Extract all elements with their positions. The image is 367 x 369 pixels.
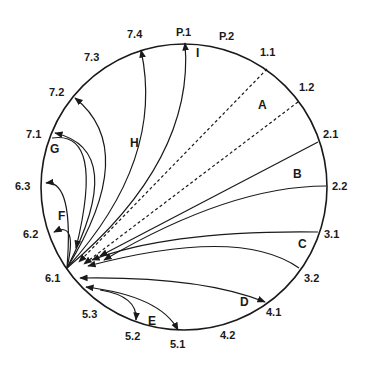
edge-group-i bbox=[67, 43, 186, 268]
edge-group-e bbox=[86, 287, 178, 330]
node-label-7-1: 7.1 bbox=[26, 128, 41, 140]
edge-1-2-to-6-1 bbox=[84, 102, 298, 264]
edge-3-2-to-6-1 bbox=[88, 246, 299, 268]
group-labels: A B C D E F G H I bbox=[50, 46, 307, 328]
group-label-c: C bbox=[298, 237, 307, 251]
node-label-5-3: 5.3 bbox=[82, 308, 97, 320]
group-label-d: D bbox=[240, 295, 249, 309]
edge-6-1-to-7-1 bbox=[55, 133, 95, 268]
group-label-f: F bbox=[58, 209, 65, 223]
group-label-e: E bbox=[148, 314, 156, 328]
node-label-3-2: 3.2 bbox=[304, 272, 319, 284]
node-label-p2: P.2 bbox=[219, 30, 234, 42]
node-label-7-4: 7.4 bbox=[127, 28, 143, 40]
node-label-7-2: 7.2 bbox=[49, 86, 64, 98]
edge-6-1-to-5-2 bbox=[100, 290, 136, 320]
group-label-g: G bbox=[50, 142, 59, 156]
node-label-4-2: 4.2 bbox=[220, 329, 235, 341]
node-label-2-1: 2.1 bbox=[323, 128, 338, 140]
edge-6-1-to-6-3 bbox=[46, 183, 68, 268]
group-label-h: H bbox=[130, 136, 139, 150]
node-label-6-2: 6.2 bbox=[23, 228, 38, 240]
node-label-2-2: 2.2 bbox=[332, 180, 347, 192]
node-label-1-2: 1.2 bbox=[299, 81, 314, 93]
node-label-5-1: 5.1 bbox=[170, 338, 185, 350]
node-label-1-1: 1.1 bbox=[260, 46, 275, 58]
group-label-a: A bbox=[258, 98, 267, 112]
node-label-3-1: 3.1 bbox=[324, 228, 339, 240]
chord-diagram: P.1 P.2 1.1 1.2 2.1 2.2 3.1 3.2 4.1 4.2 … bbox=[0, 0, 367, 369]
node-label-4-1: 4.1 bbox=[266, 306, 281, 318]
edge-2-2-to-6-1 bbox=[104, 186, 326, 260]
node-label-6-1: 6.1 bbox=[45, 272, 60, 284]
edge-2-1-to-6-1 bbox=[100, 142, 318, 256]
node-label-7-3: 7.3 bbox=[84, 51, 99, 63]
group-label-b: B bbox=[293, 167, 302, 181]
edge-6-1-to-p-1 bbox=[67, 43, 186, 268]
edge-group-c bbox=[88, 232, 318, 268]
node-label-6-3: 6.3 bbox=[15, 180, 30, 192]
node-label-p1: P.1 bbox=[176, 26, 191, 38]
node-label-5-2: 5.2 bbox=[125, 330, 140, 342]
edge-3-1-to-6-1 bbox=[92, 232, 318, 260]
edge-6-1-to-5-1 bbox=[86, 287, 178, 330]
group-label-i: I bbox=[196, 46, 199, 60]
